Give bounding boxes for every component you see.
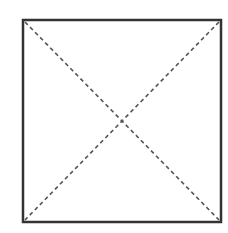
diagram-canvas [0, 0, 228, 233]
square-diagram [0, 0, 228, 233]
